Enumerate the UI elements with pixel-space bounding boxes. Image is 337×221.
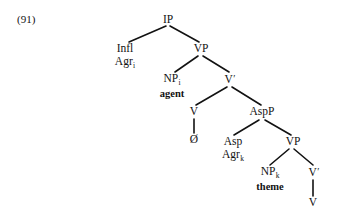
tree-branch-lines xyxy=(0,0,337,221)
branch-aspp-asp xyxy=(234,120,259,135)
node-null-head-label: Ø xyxy=(190,134,198,146)
branch-ip-vp xyxy=(170,26,199,42)
node-np-agent-role: agent xyxy=(160,89,185,100)
node-vp-top: VP xyxy=(194,43,209,55)
node-np-agent-label: NP xyxy=(163,73,178,85)
node-np-theme: NPk theme xyxy=(256,166,283,192)
node-np-theme-role: theme xyxy=(256,182,283,193)
node-vbar-top: V′ xyxy=(225,73,236,86)
branch-vbar-v xyxy=(196,87,227,105)
node-infl: Infl Agri xyxy=(115,43,135,71)
branch-aspp-vp xyxy=(265,120,291,135)
node-v-bottom-label: V xyxy=(309,197,317,209)
node-asp-subscript: k xyxy=(240,154,244,163)
node-asp-label: Asp xyxy=(224,136,243,148)
branch-vplow-np xyxy=(270,149,289,165)
node-v-upper-label: V xyxy=(190,106,198,118)
node-infl-agr-label: Agr xyxy=(115,55,133,67)
node-ip-label: IP xyxy=(163,14,173,26)
node-np-theme-label: NP xyxy=(261,166,276,178)
branch-ip-infl xyxy=(129,26,166,42)
node-np-agent: NPi agent xyxy=(160,73,185,99)
node-asp-agr-label: Agr xyxy=(222,148,240,160)
node-vbar-low-prime: ′ xyxy=(317,166,320,177)
node-np-agent-subscript: i xyxy=(178,78,180,87)
node-asp: Asp Agrk xyxy=(222,136,244,164)
node-infl-subscript: i xyxy=(133,61,135,70)
node-vp-low-label: VP xyxy=(286,136,301,148)
node-v-bottom: V xyxy=(309,197,317,209)
branch-vp-np xyxy=(175,56,198,72)
node-ip: IP xyxy=(163,14,173,26)
syntax-tree-figure: (91) IP Infl Agri xyxy=(0,0,337,221)
node-vbar-low: V′ xyxy=(309,166,320,179)
node-vp-low: VP xyxy=(286,136,301,148)
branch-vbar-aspp xyxy=(232,87,261,105)
node-infl-agr: Agri xyxy=(115,56,135,71)
node-vp-top-label: VP xyxy=(194,43,209,55)
node-infl-label: Infl xyxy=(117,43,134,55)
node-null-head: Ø xyxy=(190,134,198,146)
branch-vp-vbar xyxy=(203,56,229,72)
node-vbar-top-prime: ′ xyxy=(233,73,236,84)
node-np-theme-subscript: k xyxy=(275,171,279,180)
branch-vplow-vbar xyxy=(294,149,313,165)
node-asp-agr: Agrk xyxy=(222,149,244,164)
node-v-upper: V xyxy=(190,106,198,118)
node-aspp: AspP xyxy=(250,106,275,118)
node-aspp-label: AspP xyxy=(250,106,275,118)
